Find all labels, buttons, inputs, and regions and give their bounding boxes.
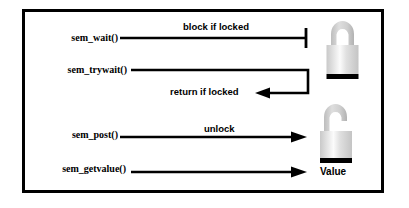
diagram-canvas: sem_wait() sem_trywait() sem_post() sem_… [0,0,409,208]
arrow-sem-trywait [131,70,308,99]
arrow-sem-wait [120,28,306,48]
padlock-closed-icon [327,21,359,79]
connector-layer [0,0,409,208]
padlock-open-icon [320,104,352,163]
arrow-sem-getvalue [131,167,307,178]
arrow-sem-post [120,132,307,143]
